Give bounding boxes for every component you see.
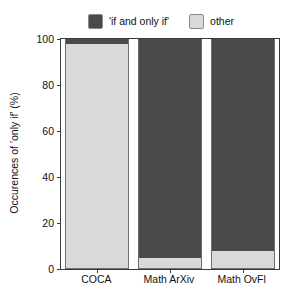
y-axis-tick-label: 60 [42, 126, 57, 137]
bar-coca[interactable] [65, 39, 129, 269]
y-axis-tick-mark [57, 177, 61, 178]
bar-segment-if-and-only-if[interactable] [138, 39, 202, 258]
bar-math-ovfl[interactable] [211, 39, 275, 269]
bar-math-arxiv[interactable] [138, 39, 202, 269]
y-axis-tick-label: 0 [48, 264, 57, 275]
legend-entry-other: other [189, 14, 234, 29]
bar-segment-other[interactable] [65, 44, 129, 269]
bar-segment-if-and-only-if[interactable] [211, 39, 275, 251]
x-axis-label-math-ovfl: Math OvFl [205, 274, 278, 285]
y-axis-tick-mark [57, 223, 61, 224]
y-axis-tick: 60 [42, 125, 61, 137]
chart-legend: 'if and only if' other [88, 10, 288, 32]
y-axis-tick-label: 80 [42, 80, 57, 91]
legend-label-if-and-only-if: 'if and only if' [109, 16, 169, 27]
y-axis-tick-mark [57, 85, 61, 86]
y-axis-tick-mark [57, 131, 61, 132]
y-axis-tick: 100 [36, 33, 61, 45]
y-axis-tick: 20 [42, 217, 61, 229]
y-axis-tick: 40 [42, 171, 61, 183]
plot-inner: 020406080100 [61, 39, 279, 269]
y-axis-tick-mark [57, 39, 61, 40]
bar-segment-other[interactable] [211, 251, 275, 269]
legend-label-other: other [210, 16, 234, 27]
y-axis-tick-label: 20 [42, 218, 57, 229]
x-axis-label-math-arxiv: Math ArXiv [133, 274, 206, 285]
bar-segment-other[interactable] [138, 258, 202, 270]
y-axis-title: Occurences of 'only if' (%) [6, 38, 22, 268]
x-axis-label-coca: COCA [60, 274, 133, 285]
legend-entry-if-and-only-if: 'if and only if' [88, 14, 169, 29]
y-axis-tick-label: 100 [36, 34, 57, 45]
y-axis-tick-mark [57, 269, 61, 270]
y-axis-tick-label: 40 [42, 172, 57, 183]
plot-area: 020406080100 [60, 38, 280, 270]
legend-swatch-if-and-only-if [88, 14, 103, 29]
stacked-bar-chart: 'if and only if' other Occurences of 'on… [0, 0, 300, 307]
y-axis-tick: 80 [42, 79, 61, 91]
legend-swatch-other [189, 14, 204, 29]
